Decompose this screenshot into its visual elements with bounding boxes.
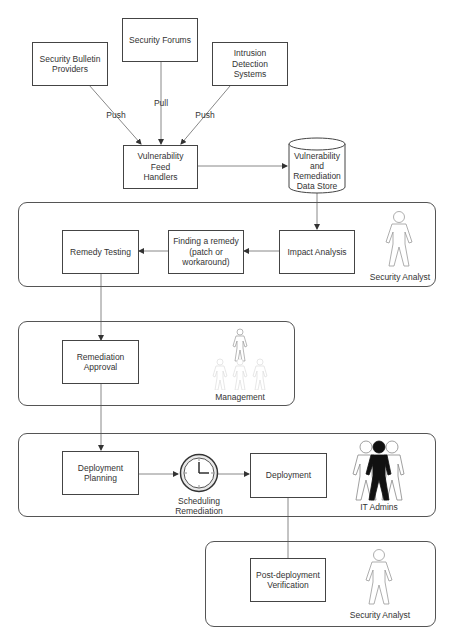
step-deployment-planning[interactable]: Deployment Planning — [62, 451, 139, 495]
step-deployment[interactable]: Deployment — [250, 453, 327, 498]
clock-icon[interactable] — [179, 453, 219, 493]
source-security-forums[interactable]: Security Forums — [122, 18, 198, 62]
group-people-icon — [350, 440, 408, 502]
step-scheduling-remediation-label: Scheduling Remediation — [168, 496, 230, 516]
vulnerability-feed-handlers[interactable]: Vulnerability Feed Handlers — [123, 145, 198, 189]
actor-label-security-analyst: Security Analyst — [366, 272, 434, 282]
actor-label-security-analyst-2: Security Analyst — [346, 610, 414, 620]
step-impact-analysis[interactable]: Impact Analysis — [279, 230, 355, 274]
source-intrusion-detection-systems[interactable]: Intrusion Detection Systems — [212, 42, 288, 86]
data-store-label[interactable]: Vulnerability and Remediation Data Store — [288, 151, 346, 191]
person-outline-icon — [384, 210, 414, 270]
org-hierarchy-people-icon — [208, 328, 272, 390]
source-security-bulletin-providers[interactable]: Security Bulletin Providers — [32, 42, 108, 86]
edge-label-pull: Pull — [151, 98, 171, 108]
edge-label-push-left: Push — [104, 110, 128, 120]
step-finding-a-remedy[interactable]: Finding a remedy (patch or workaround) — [168, 230, 244, 274]
step-remedy-testing[interactable]: Remedy Testing — [62, 230, 139, 274]
actor-label-management: Management — [208, 392, 272, 402]
edge-label-push-right: Push — [193, 110, 217, 120]
step-post-deployment-verification[interactable]: Post-deployment Verification — [250, 558, 326, 602]
step-remediation-approval[interactable]: Remediation Approval — [62, 340, 139, 384]
actor-label-it-admins: IT Admins — [350, 502, 408, 512]
person-outline-icon — [364, 548, 394, 608]
